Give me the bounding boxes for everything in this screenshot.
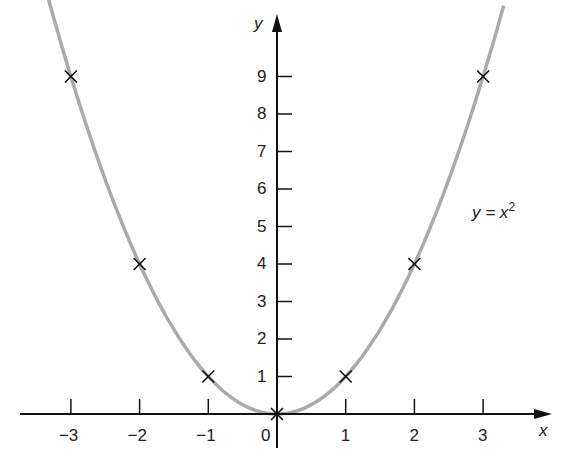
chart: y x y = x2 −3−2−10123123456789 bbox=[0, 0, 572, 464]
x-axis-label: x bbox=[539, 421, 548, 441]
curve-label-text: y = x bbox=[472, 203, 508, 222]
y-tick-label: 8 bbox=[257, 104, 266, 124]
y-tick-label: 2 bbox=[257, 329, 266, 349]
y-tick-label: 7 bbox=[257, 142, 266, 162]
x-axis-arrow-icon bbox=[534, 409, 552, 419]
y-axis-arrow-icon bbox=[272, 14, 282, 32]
x-tick-label: 3 bbox=[478, 426, 487, 446]
x-tick-label: −2 bbox=[128, 426, 147, 446]
x-tick-label: 0 bbox=[261, 426, 270, 446]
x-tick-label: 2 bbox=[409, 426, 418, 446]
point-marker-x-icon bbox=[340, 371, 352, 383]
point-marker-x-icon bbox=[202, 371, 214, 383]
y-axis-label: y bbox=[254, 14, 263, 34]
curve-label: y = x2 bbox=[472, 200, 515, 223]
x-tick-label: −1 bbox=[196, 426, 215, 446]
y-tick-label: 6 bbox=[257, 179, 266, 199]
y-tick-label: 4 bbox=[257, 254, 266, 274]
y-tick-label: 9 bbox=[257, 67, 266, 87]
y-tick-label: 1 bbox=[257, 367, 266, 387]
x-tick-label: −3 bbox=[59, 426, 78, 446]
y-tick-label: 3 bbox=[257, 292, 266, 312]
x-tick-label: 1 bbox=[341, 426, 350, 446]
y-tick-label: 5 bbox=[257, 217, 266, 237]
plot-area bbox=[0, 0, 572, 464]
curve-label-exponent: 2 bbox=[508, 200, 515, 214]
parabola-curve bbox=[47, 0, 504, 414]
